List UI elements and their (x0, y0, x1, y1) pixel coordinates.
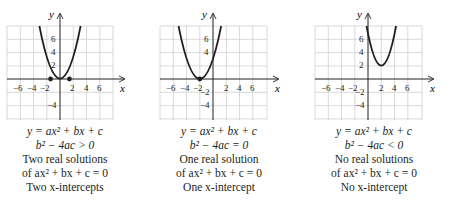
equation: y = ax² + bx + c (0, 124, 130, 138)
panel-one-solution: x y −6 −4 −2 2 4 6 6 4 −2 −4 y = ax² + b… (154, 0, 304, 204)
graph-two-intercepts: x y −6 −4 −2 2 4 6 6 4 2 −4 (0, 0, 150, 124)
solutions-equation: of ax² + bx + c = 0 (0, 166, 130, 180)
svg-text:2: 2 (359, 60, 364, 70)
y-axis-label: y (356, 8, 362, 20)
svg-text:−4: −4 (47, 100, 57, 110)
svg-text:−4: −4 (200, 100, 210, 110)
svg-text:−2: −2 (355, 87, 365, 97)
tick-labels: −6 −4 −2 2 4 6 6 4 −2 −4 (166, 34, 255, 110)
svg-text:4: 4 (84, 83, 89, 93)
svg-text:4: 4 (392, 83, 397, 93)
discriminant: b² − 4ac < 0 (309, 138, 439, 152)
svg-text:6: 6 (359, 34, 364, 44)
graph-no-intercept: x y −6 −4 −2 2 4 6 6 4 2 −2 −4 (309, 0, 451, 124)
axes (160, 14, 278, 120)
graph-one-intercept: x y −6 −4 −2 2 4 6 6 4 −2 −4 (154, 0, 304, 124)
svg-text:−4: −4 (27, 83, 37, 93)
solutions-text: One real solution (154, 152, 284, 166)
y-axis-label: y (201, 8, 207, 20)
svg-text:−2: −2 (40, 83, 50, 93)
svg-text:−6: −6 (321, 83, 331, 93)
equation: y = ax² + bx + c (309, 124, 439, 138)
svg-text:−2: −2 (200, 87, 210, 97)
tick-labels: −6 −4 −2 2 4 6 6 4 2 −2 −4 (321, 34, 410, 110)
solutions-equation: of ax² + bx + c = 0 (154, 166, 284, 180)
axes (7, 14, 124, 120)
svg-text:6: 6 (204, 34, 209, 44)
caption: y = ax² + bx + c b² − 4ac > 0 Two real s… (0, 124, 130, 194)
svg-text:4: 4 (237, 83, 242, 93)
solutions-equation: of ax² + bx + c = 0 (309, 166, 439, 180)
intercepts-text: One x-intercept (154, 180, 284, 194)
intercepts-text: No x-intercept (309, 180, 439, 194)
caption: y = ax² + bx + c b² − 4ac = 0 One real s… (154, 124, 284, 194)
svg-text:−4: −4 (355, 100, 365, 110)
svg-text:6: 6 (405, 83, 410, 93)
svg-text:−6: −6 (13, 83, 23, 93)
svg-text:2: 2 (70, 83, 75, 93)
x-axis-label: x (429, 82, 435, 94)
svg-text:−6: −6 (166, 83, 176, 93)
solutions-text: Two real solutions (0, 152, 130, 166)
intercepts-text: Two x-intercepts (0, 180, 130, 194)
svg-text:4: 4 (359, 47, 364, 57)
tick-labels: −6 −4 −2 2 4 6 6 4 2 −4 (13, 34, 102, 110)
svg-text:6: 6 (250, 83, 255, 93)
caption: y = ax² + bx + c b² − 4ac < 0 No real so… (309, 124, 439, 194)
x-axis-label: x (274, 82, 280, 94)
discriminant: b² − 4ac > 0 (0, 138, 130, 152)
svg-text:2: 2 (224, 83, 229, 93)
equation: y = ax² + bx + c (154, 124, 284, 138)
panel-no-solutions: x y −6 −4 −2 2 4 6 6 4 2 −2 −4 y = ax² +… (309, 0, 451, 204)
svg-text:−4: −4 (335, 83, 345, 93)
solutions-text: No real solutions (309, 152, 439, 166)
svg-text:6: 6 (97, 83, 102, 93)
svg-text:2: 2 (379, 83, 384, 93)
svg-text:−4: −4 (180, 83, 190, 93)
svg-text:6: 6 (51, 34, 56, 44)
discriminant: b² − 4ac = 0 (154, 138, 284, 152)
x-intercept-point (197, 77, 202, 82)
svg-text:4: 4 (204, 47, 209, 57)
x-intercept-point (67, 77, 72, 82)
axes (315, 14, 433, 120)
x-axis-label: x (119, 82, 125, 94)
y-axis-label: y (48, 8, 54, 20)
svg-text:4: 4 (51, 47, 56, 57)
panel-two-solutions: x y −6 −4 −2 2 4 6 6 4 2 −4 y = ax² + bx… (0, 0, 150, 204)
x-intercept-point (48, 77, 53, 82)
